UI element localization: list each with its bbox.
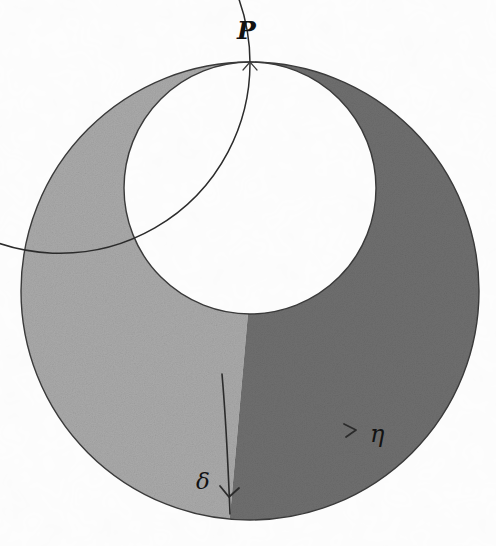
label-point-p: P (237, 16, 256, 45)
geometry-diagram (0, 0, 496, 546)
annulus-shading (0, 0, 496, 546)
label-eta: η (370, 420, 384, 448)
figure-container: P η δ (0, 0, 496, 546)
label-delta: δ (196, 468, 210, 494)
